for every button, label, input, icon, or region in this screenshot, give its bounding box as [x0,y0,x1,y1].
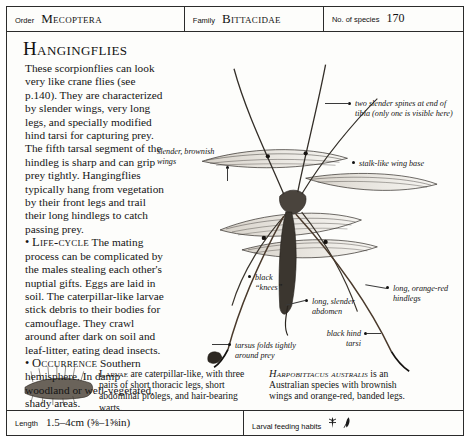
lifecycle-text: The mating process can be complicated by… [25,236,164,355]
length-cell: Length 1.5–4cm (⅝–1⅝in) [7,411,244,435]
length-label: Length [15,419,38,428]
order-cell: Order Mecoptera [7,7,185,31]
annotation-abdomen-leader [285,300,305,306]
annotation-hind-tarsi: black hind tarsi [315,329,361,348]
larvae-caption-lead: Larvae [99,368,128,379]
annotation-hind-tarsi-leader [367,333,381,334]
taxonomy-header: Order Mecoptera Family Bittacidae No. of… [7,7,463,32]
species-count-cell: No. of species 170 [324,7,463,31]
annotation-knees-dot [248,275,251,278]
feeding-habits-icons [328,416,351,429]
page-title: Hangingflies [23,38,127,60]
article-body: These scorpionflies can look very like c… [25,62,167,411]
larva-icon [328,416,337,429]
page-frame: Order Mecoptera Family Bittacidae No. of… [6,6,464,436]
species-caption-lead: Harpobittacus australis [269,368,368,379]
annotation-wing-base: stalk-like wing base [359,159,451,169]
annotation-wings-leader [227,168,228,181]
annotation-tarsus-dot [228,343,231,346]
order-label: Order [15,16,34,25]
larvae-caption: Larvae are caterpillar-like, with three … [99,368,249,413]
reference-page: Order Mecoptera Family Bittacidae No. of… [0,0,470,442]
annotation-wings: slender, brownish wings [157,147,229,166]
annotation-tarsus-leader [212,344,228,345]
occurrence-heading: Occurrence [32,356,97,370]
leaf-litter-icon [342,416,351,429]
species-count-value: 170 [386,11,404,26]
annotation-abdomen-dot [305,299,308,302]
feeding-habits-cell: Larval feeding habits [244,411,463,435]
feeding-habits-label: Larval feeding habits [252,422,321,431]
annotation-spines: two slender spines at end of tibia (only… [355,99,460,118]
family-value: Bittacidae [222,11,281,27]
lifecycle-paragraph: • Life-cycle The mating process can be c… [25,236,167,357]
occurrence-bullet: • [25,356,29,370]
lifecycle-heading: Life-cycle [32,235,89,249]
lifecycle-bullet: • [25,235,29,249]
page-footer: Length 1.5–4cm (⅝–1⅝in) Larval feeding h… [7,410,463,435]
annotation-hindlegs: long, orange-red hindlegs [393,284,465,303]
length-value: 1.5–4cm (⅝–1⅝in) [46,416,130,428]
species-caption: Harpobittacus australis is an Australian… [269,368,419,402]
species-count-label: No. of species [332,15,380,24]
family-cell: Family Bittacidae [185,7,324,31]
annotation-knees: black “knees” [255,273,295,292]
intro-paragraph: These scorpionflies can look very like c… [25,62,167,236]
annotation-wing-base-dot [352,161,355,164]
family-label: Family [193,16,215,25]
annotation-abdomen: long, slender abdomen [312,297,374,316]
annotation-tarsus: tarsus folds tightly around prey [235,341,319,360]
order-value: Mecoptera [41,11,102,27]
annotation-spines-leader [325,103,349,104]
annotation-hindlegs-leader [365,284,387,289]
